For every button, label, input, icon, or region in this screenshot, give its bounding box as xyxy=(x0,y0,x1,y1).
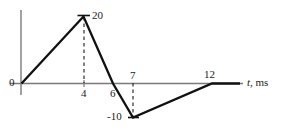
x-axis-label-unit: , ms xyxy=(250,76,268,88)
x-tick-label-6: 6 xyxy=(110,88,116,99)
x-tick-label-4: 4 xyxy=(81,88,87,99)
waveform-figure: 0 20 -10 4 6 7 12 t, ms xyxy=(0,0,282,135)
x-axis-label: t, ms xyxy=(247,77,268,88)
peak-value-label: 20 xyxy=(92,10,103,21)
origin-label: 0 xyxy=(9,77,15,88)
x-tick-label-12: 12 xyxy=(204,69,215,80)
x-tick-label-7: 7 xyxy=(130,70,136,81)
waveform-trace xyxy=(22,17,241,118)
waveform-plot-svg xyxy=(0,0,282,135)
minimum-value-label: -10 xyxy=(107,111,122,122)
